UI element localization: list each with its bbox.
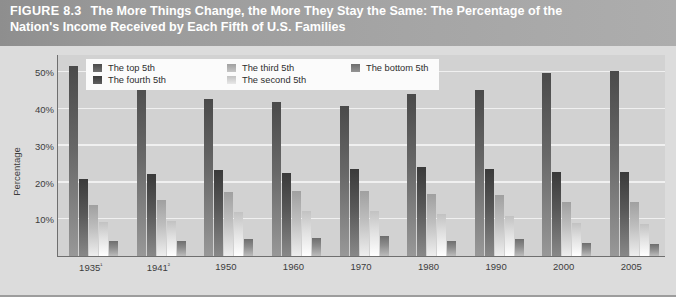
x-axis-label-1980: 1980: [395, 261, 463, 272]
bar-1950-the-second-5th: [234, 212, 243, 256]
bar-1980-the-third-5th: [427, 194, 436, 256]
bar-2005-the-bottom-5th: [650, 244, 659, 256]
x-axis-label-1941: 1941²: [125, 261, 193, 273]
x-tick-label-1960: 1960: [283, 261, 304, 272]
figure-title-line-1: The More Things Change, the More They St…: [91, 4, 563, 18]
bar-1950-the-third-5th: [224, 192, 233, 256]
bar-2000-the-bottom-5th: [582, 243, 591, 256]
figure-title-line-2: Nation's Income Received by Each Fifth o…: [10, 20, 662, 35]
bar-1970-the-top-5th: [340, 106, 349, 256]
legend-item-second-5th: The second 5th: [227, 75, 347, 85]
bar-1941-the-second-5th: [167, 221, 176, 256]
chart-legend: The top 5th The third 5th The bottom 5th…: [86, 59, 439, 90]
bar-1960-the-bottom-5th: [312, 238, 321, 256]
bar-group-2000: [542, 55, 591, 256]
bar-2000-the-top-5th: [542, 73, 551, 256]
bar-1935-the-top-5th: [69, 66, 78, 256]
bar-1950-the-bottom-5th: [244, 239, 253, 256]
bar-1950-the-fourth-5th: [214, 170, 223, 256]
legend-label-top-5th: The top 5th: [108, 63, 155, 73]
figure-container: FIGURE 8.3The More Things Change, the Mo…: [0, 0, 676, 297]
legend-label-bottom-5th: The bottom 5th: [366, 63, 429, 73]
y-tick-label-9-30: 30%: [14, 141, 54, 152]
bar-2000-the-fourth-5th: [552, 172, 561, 256]
bar-1960-the-fourth-5th: [282, 173, 291, 256]
x-axis-label-1960: 1960: [260, 261, 328, 272]
bar-1941-the-bottom-5th: [177, 241, 186, 256]
x-axis-label-1935: 1935¹: [57, 261, 125, 273]
legend-swatch-top-5th: [93, 64, 102, 72]
figure-header-bar: FIGURE 8.3The More Things Change, the Mo…: [0, 0, 676, 46]
legend-swatch-second-5th: [227, 76, 236, 84]
legend-item-fourth-5th: The fourth 5th: [93, 75, 223, 85]
x-tick-footnote-marker-1941: ²: [168, 261, 170, 268]
bar-1935-the-second-5th: [99, 222, 108, 256]
bar-1990-the-bottom-5th: [515, 239, 524, 256]
bar-1980-the-second-5th: [437, 214, 446, 256]
legend-swatch-bottom-5th: [351, 64, 360, 72]
legend-label-fourth-5th: The fourth 5th: [108, 75, 166, 85]
y-tick-label-9-10: 10%: [14, 214, 54, 225]
bar-1990-the-third-5th: [495, 195, 504, 256]
bar-1980-the-bottom-5th: [447, 241, 456, 256]
figure-header-line-1: FIGURE 8.3The More Things Change, the Mo…: [10, 4, 662, 19]
bar-1970-the-bottom-5th: [380, 236, 389, 256]
x-axis-label-1950: 1950: [192, 261, 260, 272]
bar-1970-the-third-5th: [360, 191, 369, 256]
x-axis-label-2000: 2000: [530, 261, 598, 272]
legend-label-third-5th: The third 5th: [242, 63, 294, 73]
legend-swatch-fourth-5th: [93, 76, 102, 84]
x-tick-label-1950: 1950: [215, 261, 236, 272]
x-tick-label-2005: 2005: [621, 261, 642, 272]
y-tick-label-9-40: 40%: [14, 104, 54, 115]
y-tick-label-9-20: 20%: [14, 178, 54, 189]
x-tick-label-1941: 1941: [147, 262, 168, 273]
bar-group-2005: [610, 55, 659, 256]
bar-1941-the-third-5th: [157, 200, 166, 256]
legend-item-third-5th: The third 5th: [227, 63, 347, 73]
bar-1960-the-second-5th: [302, 211, 311, 256]
x-tick-footnote-marker-1935: ¹: [100, 261, 102, 268]
legend-item-top-5th: The top 5th: [93, 63, 223, 73]
bar-1941-the-top-5th: [137, 76, 146, 256]
x-axis-label-1970: 1970: [327, 261, 395, 272]
bar-1970-the-fourth-5th: [350, 169, 359, 256]
bar-1950-the-top-5th: [204, 99, 213, 256]
x-tick-label-1990: 1990: [486, 261, 507, 272]
legend-label-second-5th: The second 5th: [242, 75, 306, 85]
bar-2000-the-third-5th: [562, 202, 571, 256]
bar-1990-the-fourth-5th: [485, 169, 494, 256]
bar-1980-the-top-5th: [407, 94, 416, 256]
bar-1960-the-top-5th: [272, 102, 281, 256]
bar-2005-the-third-5th: [630, 202, 639, 256]
bar-1980-the-fourth-5th: [417, 167, 426, 256]
legend-item-bottom-5th: The bottom 5th: [351, 63, 429, 73]
x-tick-label-1970: 1970: [350, 261, 371, 272]
bar-1935-the-third-5th: [89, 205, 98, 256]
bar-1960-the-third-5th: [292, 191, 301, 256]
bar-group-1990: [475, 55, 524, 256]
bar-2000-the-second-5th: [572, 223, 581, 256]
bar-1935-the-bottom-5th: [109, 241, 118, 256]
bar-1990-the-top-5th: [475, 90, 484, 256]
x-tick-label-1980: 1980: [418, 261, 439, 272]
y-tick-label-9-50: 50%: [14, 67, 54, 78]
bar-1990-the-second-5th: [505, 216, 514, 256]
bar-1970-the-second-5th: [370, 211, 379, 256]
bar-1941-the-fourth-5th: [147, 174, 156, 256]
chart-panel: Percentage 10%20%30%40%50% 1935¹1941²195…: [0, 46, 676, 297]
bar-1935-the-fourth-5th: [79, 179, 88, 256]
bar-2005-the-top-5th: [610, 71, 619, 256]
x-axis-label-1990: 1990: [462, 261, 530, 272]
legend-swatch-third-5th: [227, 64, 236, 72]
x-axis-label-2005: 2005: [597, 261, 665, 272]
bar-2005-the-fourth-5th: [620, 172, 629, 256]
figure-number-label: FIGURE 8.3: [10, 4, 82, 18]
bar-2005-the-second-5th: [640, 224, 649, 256]
x-tick-label-2000: 2000: [553, 261, 574, 272]
x-tick-label-1935: 1935: [79, 262, 100, 273]
